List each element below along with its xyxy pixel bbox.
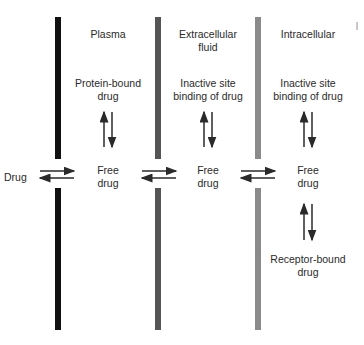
equilibrium-arrows-extracellular-binding: [204, 112, 212, 147]
equilibrium-arrows-protein-binding: [104, 112, 112, 147]
equilibrium-arrows-extracellular-intracellular: [241, 171, 275, 178]
equilibrium-arrows-intracellular-binding: [304, 112, 312, 147]
equilibrium-arrows-receptor-binding: [304, 204, 312, 240]
equilibrium-arrows-entry: [40, 171, 74, 178]
equilibrium-arrows-plasma-extracellular: [142, 171, 176, 178]
arrows-layer: [0, 0, 364, 345]
